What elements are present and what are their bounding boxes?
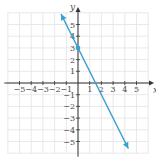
y-tick-label: 2 <box>70 56 75 65</box>
y-tick-label: 3 <box>70 44 75 53</box>
axes <box>4 7 154 157</box>
x-tick-label: −5 <box>14 85 26 94</box>
y-tick-label: 1 <box>70 67 75 76</box>
y-tick-label: −2 <box>63 102 75 111</box>
y-tick-label: −3 <box>63 114 75 123</box>
data-points <box>76 46 81 51</box>
x-tick-label: 5 <box>134 85 139 94</box>
x-tick-label: −3 <box>37 85 49 94</box>
x-tick-label: 4 <box>122 85 127 94</box>
x-axis-label: x <box>153 85 156 95</box>
line-graph: −5−4−3−2−11234554321−1−2−3−4−5 x y <box>0 0 156 165</box>
intercept-point <box>76 46 81 51</box>
y-tick-label: 5 <box>70 21 75 30</box>
y-tick-label: −1 <box>63 91 75 100</box>
y-axis-arrow-icon <box>76 7 81 12</box>
x-tick-label: −4 <box>25 85 37 94</box>
y-tick-label: −5 <box>63 138 75 147</box>
y-tick-label: −4 <box>63 126 75 135</box>
x-tick-label: 3 <box>111 85 116 94</box>
x-tick-label: 1 <box>87 85 92 94</box>
x-tick-label: −2 <box>49 85 61 94</box>
y-axis-label: y <box>69 2 76 12</box>
